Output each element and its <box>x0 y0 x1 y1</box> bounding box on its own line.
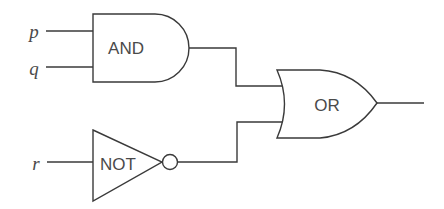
or-gate-label: OR <box>314 96 340 115</box>
not-gate-bubble <box>163 155 178 170</box>
logic-circuit-diagram: p q r AND NOT OR <box>0 0 444 209</box>
and-gate-label: AND <box>108 39 144 58</box>
input-label-p: p <box>27 21 39 42</box>
input-label-r: r <box>32 153 40 174</box>
wire-and-to-or <box>189 48 283 86</box>
input-label-q: q <box>29 58 39 79</box>
wire-not-to-or <box>178 122 283 162</box>
not-gate-label: NOT <box>100 155 136 174</box>
